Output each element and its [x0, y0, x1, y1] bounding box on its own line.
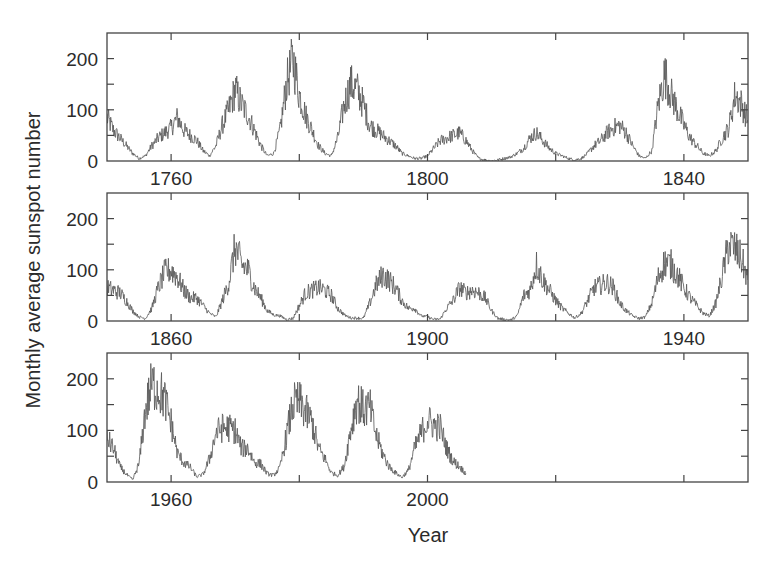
y-tick-label: 0 — [87, 151, 98, 172]
chart-canvas: 0100200176018001840010020018601900194001… — [0, 0, 766, 562]
y-tick-label: 0 — [87, 472, 98, 493]
x-tick-label: 1800 — [406, 168, 448, 189]
x-axis-label: Year — [408, 524, 449, 546]
sunspot-series-line — [107, 232, 748, 321]
panel-3: 010020019602000 — [66, 353, 748, 510]
y-tick-label: 200 — [66, 209, 98, 230]
sunspot-series-line — [107, 39, 748, 161]
x-tick-label: 2000 — [406, 489, 448, 510]
y-tick-label: 200 — [66, 369, 98, 390]
sunspot-series-line — [107, 364, 466, 480]
panel-1: 0100200176018001840 — [66, 33, 748, 189]
y-tick-label: 100 — [66, 420, 98, 441]
y-axis-label: Monthly average sunspot number — [22, 111, 44, 408]
x-tick-label: 1860 — [150, 328, 192, 349]
x-tick-label: 1960 — [150, 489, 192, 510]
y-tick-label: 100 — [66, 100, 98, 121]
panels-layer: 0100200176018001840010020018601900194001… — [66, 33, 748, 510]
x-tick-label: 1940 — [663, 328, 705, 349]
y-tick-label: 100 — [66, 260, 98, 281]
plot-frame — [107, 33, 748, 161]
x-tick-label: 1900 — [406, 328, 448, 349]
y-tick-label: 0 — [87, 311, 98, 332]
panel-2: 0100200186019001940 — [66, 193, 748, 349]
sunspot-chart-figure: 0100200176018001840010020018601900194001… — [0, 0, 766, 562]
x-tick-label: 1840 — [663, 168, 705, 189]
y-tick-label: 200 — [66, 49, 98, 70]
plot-frame — [107, 353, 748, 482]
x-tick-label: 1760 — [150, 168, 192, 189]
